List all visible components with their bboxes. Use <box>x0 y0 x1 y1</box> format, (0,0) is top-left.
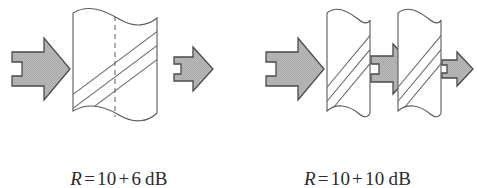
figure-root: R=10+6dB =16dB R=10+10dB =20dB <box>0 0 477 188</box>
equation-operator: + <box>116 168 131 188</box>
equation-unit: dB <box>141 168 168 188</box>
equation-line-1: R=10+10dB <box>238 168 477 188</box>
arrow-transmitted-icon <box>174 47 213 91</box>
double-leaf-equation-caption: R=10+10dB =20dB <box>238 130 477 188</box>
equation-term-1: 10 <box>331 168 350 188</box>
arrow-incident-icon <box>12 38 70 100</box>
equation-variable: R <box>304 168 316 188</box>
equation-term-1: 10 <box>97 168 116 188</box>
single-leaf-equation-caption: R=10+6dB =16dB <box>0 130 238 188</box>
wall-1-single-leaf <box>60 9 170 130</box>
equation-operator: + <box>350 168 365 188</box>
equation-term-2: 6 <box>131 168 141 188</box>
double-leaf-wall-diagram <box>238 0 477 130</box>
equation-equals: = <box>82 168 97 188</box>
single-leaf-wall-diagram <box>0 0 238 130</box>
wall-1-leaf <box>318 9 383 126</box>
arrow-transmitted-icon <box>442 52 473 86</box>
arrow-incident-icon <box>266 38 324 100</box>
equation-line-1: R=10+6dB <box>0 168 238 188</box>
wall-2-leaf <box>389 9 454 126</box>
equation-variable: R <box>70 168 82 188</box>
equation-term-2: 10 <box>365 168 384 188</box>
equation-equals: = <box>316 168 331 188</box>
equation-unit: dB <box>384 168 411 188</box>
